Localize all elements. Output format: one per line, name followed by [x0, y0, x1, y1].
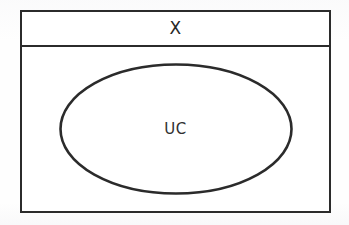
subset-ellipse-group: UC — [59, 63, 293, 195]
universe-body-region: UC — [22, 47, 329, 211]
universe-rectangle: X UC — [20, 10, 331, 213]
universe-label: X — [169, 20, 181, 38]
subset-label: UC — [59, 122, 293, 137]
diagram-canvas: X UC — [0, 0, 349, 225]
universe-label-band: X — [22, 12, 329, 47]
